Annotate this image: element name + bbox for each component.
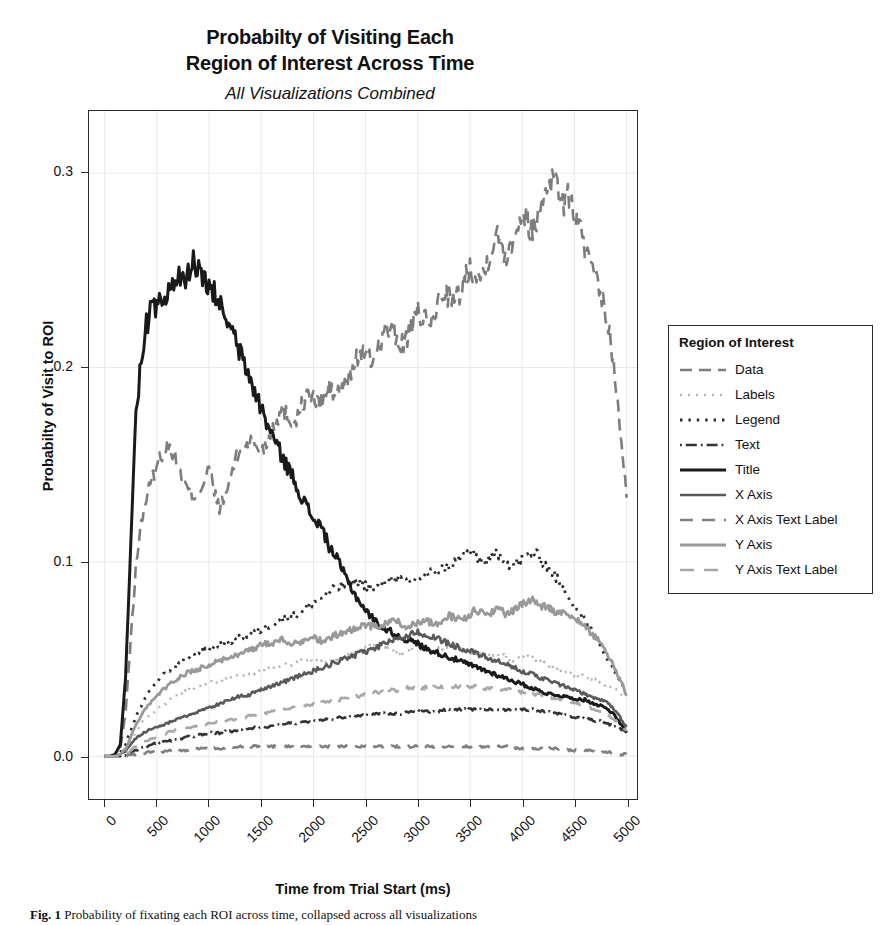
- x-tick-label: 1500: [220, 812, 277, 869]
- x-tick-mark: [104, 800, 105, 807]
- chart-title-block: Probabilty of Visiting Each Region of In…: [0, 24, 660, 106]
- legend-label: Labels: [735, 387, 775, 402]
- legend-label: Title: [735, 462, 760, 477]
- y-tick-mark: [81, 367, 88, 368]
- legend-swatch-x-axis-icon: [679, 488, 727, 502]
- legend-swatch-x-axis-text-label-icon: [679, 513, 727, 527]
- y-tick-label: 0.0: [27, 748, 73, 764]
- legend-entry[interactable]: X Axis: [679, 482, 864, 507]
- legend-entry[interactable]: X Axis Text Label: [679, 507, 864, 532]
- legend-label: X Axis Text Label: [735, 512, 838, 527]
- legend-entry[interactable]: Y Axis Text Label: [679, 557, 864, 582]
- y-tick-label: 0.1: [27, 553, 73, 569]
- legend-entry[interactable]: Y Axis: [679, 532, 864, 557]
- x-tick-label: 2000: [272, 812, 329, 869]
- legend-entry[interactable]: Labels: [679, 382, 864, 407]
- y-tick-mark: [81, 757, 88, 758]
- legend-label: Y Axis: [735, 537, 772, 552]
- figure-caption-text: Probability of fixating each ROI across …: [64, 907, 477, 922]
- x-tick-mark: [156, 800, 157, 807]
- legend: Region of Interest DataLabelsLegendTextT…: [668, 325, 873, 594]
- x-tick-label: 3500: [429, 812, 486, 869]
- x-tick-label: 4500: [534, 812, 591, 869]
- x-tick-label: 3000: [377, 812, 434, 869]
- legend-title: Region of Interest: [679, 335, 864, 350]
- x-tick-mark: [523, 800, 524, 807]
- legend-swatch-y-axis-icon: [679, 538, 727, 552]
- legend-label: Data: [735, 362, 764, 377]
- x-tick-mark: [366, 800, 367, 807]
- chart-subtitle: All Visualizations Combined: [0, 82, 660, 106]
- legend-entry[interactable]: Legend: [679, 407, 864, 432]
- legend-label: Text: [735, 437, 760, 452]
- y-axis-title: Probabilty of Visit to ROI: [40, 276, 56, 536]
- figure-root: Probabilty of Visiting Each Region of In…: [0, 0, 895, 925]
- legend-swatch-y-axis-text-label-icon: [679, 563, 727, 577]
- legend-entries: DataLabelsLegendTextTitleX AxisX Axis Te…: [679, 357, 864, 582]
- legend-swatch-title-icon: [679, 463, 727, 477]
- x-tick-mark: [261, 800, 262, 807]
- figure-caption: Fig. 1 Probability of fixating each ROI …: [30, 906, 870, 925]
- plot-canvas: [89, 111, 637, 799]
- chart-title-line-2: Region of Interest Across Time: [0, 50, 660, 76]
- legend-label: Y Axis Text Label: [735, 562, 837, 577]
- y-tick-label: 0.3: [27, 163, 73, 179]
- x-tick-mark: [470, 800, 471, 807]
- legend-label: X Axis: [735, 487, 773, 502]
- figure-caption-label: Fig. 1: [30, 907, 61, 922]
- legend-swatch-labels-icon: [679, 388, 727, 402]
- x-axis-title: Time from Trial Start (ms): [88, 881, 638, 897]
- y-tick-mark: [81, 172, 88, 173]
- y-tick-mark: [81, 562, 88, 563]
- chart-title-line-1: Probabilty of Visiting Each: [0, 24, 660, 50]
- x-tick-label: 1000: [167, 812, 224, 869]
- x-tick-mark: [208, 800, 209, 807]
- plot-area: [88, 110, 638, 800]
- x-tick-label: 4000: [481, 812, 538, 869]
- legend-entry[interactable]: Text: [679, 432, 864, 457]
- y-tick-label: 0.2: [27, 358, 73, 374]
- legend-swatch-data-icon: [679, 363, 727, 377]
- x-tick-mark: [628, 800, 629, 807]
- legend-entry[interactable]: Data: [679, 357, 864, 382]
- x-tick-mark: [418, 800, 419, 807]
- legend-swatch-text-icon: [679, 438, 727, 452]
- legend-entry[interactable]: Title: [679, 457, 864, 482]
- x-tick-label: 2500: [324, 812, 381, 869]
- x-tick-label: 500: [115, 812, 172, 869]
- x-tick-mark: [313, 800, 314, 807]
- legend-swatch-legend-icon: [679, 413, 727, 427]
- x-tick-label: 5000: [586, 812, 643, 869]
- x-tick-mark: [575, 800, 576, 807]
- legend-label: Legend: [735, 412, 780, 427]
- x-tick-label: 0: [62, 812, 119, 869]
